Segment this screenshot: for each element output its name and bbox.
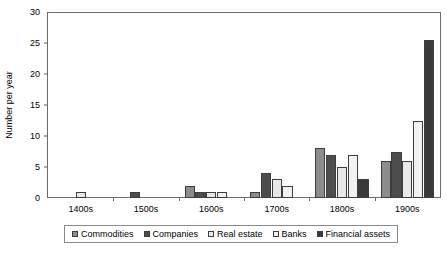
bar-group — [113, 12, 178, 198]
plot-right-border — [440, 12, 441, 198]
bar-chart: Number per year 051015202530 1400s1500s1… — [0, 0, 447, 257]
bar — [348, 155, 358, 198]
legend-item-label: Banks — [282, 229, 307, 239]
bar — [326, 155, 336, 198]
x-axis-tick-mark — [244, 197, 245, 201]
bar — [195, 192, 205, 198]
legend-swatch-icon — [273, 231, 279, 237]
x-axis-tick-label: 1800s — [330, 203, 355, 215]
x-axis-tick-label: 1900s — [395, 203, 420, 215]
y-axis-tick-label: 30 — [30, 8, 40, 17]
y-axis-title: Number per year — [0, 0, 18, 210]
legend-item: Companies — [144, 229, 199, 239]
bar-group — [375, 12, 440, 198]
x-axis-tick-label: 1600s — [199, 203, 224, 215]
y-axis-tick-label: 15 — [30, 101, 40, 110]
legend-item-label: Real estate — [217, 229, 263, 239]
bars-container — [48, 12, 440, 198]
y-axis-tick-label: 25 — [30, 39, 40, 48]
legend-swatch-icon — [208, 231, 214, 237]
bar-group — [179, 12, 244, 198]
legend-swatch-icon — [72, 231, 78, 237]
x-axis-tick-mark — [179, 197, 180, 201]
bar-group — [48, 12, 113, 198]
bar — [315, 148, 325, 198]
legend-item: Financial assets — [317, 229, 391, 239]
bar — [381, 161, 391, 198]
x-axis-labels: 1400s1500s1600s1700s1800s1900s — [48, 203, 440, 219]
plot-area: 051015202530 1400s1500s1600s1700s1800s19… — [20, 6, 442, 206]
y-axis-ticks: 051015202530 — [20, 6, 44, 206]
bar — [282, 186, 292, 198]
legend-item: Banks — [273, 229, 307, 239]
bar-group — [309, 12, 374, 198]
bar — [185, 186, 195, 198]
bar — [337, 167, 347, 198]
y-axis-tick-label: 10 — [30, 132, 40, 141]
legend-swatch-icon — [317, 231, 323, 237]
bar — [206, 192, 216, 198]
x-axis-tick-label: 1500s — [134, 203, 159, 215]
y-axis-title-label: Number per year — [4, 71, 14, 139]
bar — [76, 192, 86, 198]
bar — [261, 173, 271, 198]
bar — [391, 152, 401, 199]
y-axis-tick-label: 20 — [30, 70, 40, 79]
legend-item: Commodities — [72, 229, 134, 239]
bar — [130, 192, 140, 198]
y-axis-tick-label: 5 — [35, 163, 40, 172]
bar — [272, 179, 282, 198]
y-axis-tick-label: 0 — [35, 194, 40, 203]
legend-item: Real estate — [208, 229, 263, 239]
bar — [217, 192, 227, 198]
bar-group — [244, 12, 309, 198]
legend-swatch-icon — [144, 231, 150, 237]
bar — [250, 192, 260, 198]
legend-item-label: Companies — [153, 229, 199, 239]
bar — [402, 161, 412, 198]
x-axis-tick-mark — [113, 197, 114, 201]
bar — [424, 40, 434, 198]
chart-legend: CommoditiesCompaniesReal estateBanksFina… — [64, 225, 398, 243]
x-axis-tick-mark — [375, 197, 376, 201]
x-axis-tick-label: 1400s — [68, 203, 93, 215]
legend-item-label: Financial assets — [326, 229, 391, 239]
bar — [413, 121, 423, 199]
bar — [358, 179, 368, 198]
x-axis-tick-mark — [309, 197, 310, 201]
legend-item-label: Commodities — [81, 229, 134, 239]
x-axis-tick-label: 1700s — [264, 203, 289, 215]
